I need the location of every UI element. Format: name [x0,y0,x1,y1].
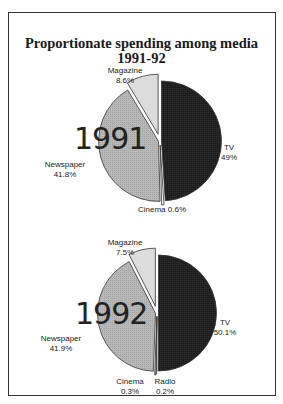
label-1991-magazine: Magazine 8.6% [100,66,150,86]
pie-slice-tv [158,255,216,371]
pie-slice-tv [161,81,221,201]
label-1992-radio: Radio 0.2% [150,377,180,397]
label-1992-cinema: Cinema 0.3% [113,377,147,397]
year-label-1991: 1991 [74,124,146,154]
label-1992-magazine: Magazine 7.5% [100,238,150,258]
label-1991-tv: TV 49% [209,143,249,163]
label-1991-newspaper: Newspaper 41.8% [40,160,90,180]
label-1992-tv: TV 50.1% [205,318,245,338]
label-1991-cinema: Cinema 0.6% [112,205,212,215]
label-1992-newspaper: Newspaper 41.9% [36,334,86,354]
year-label-1992: 1992 [75,299,147,329]
